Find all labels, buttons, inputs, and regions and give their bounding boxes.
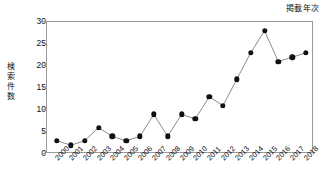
y-axis-title-char: 件 [5,82,17,92]
chart-figure: 掲載年次 検索件数 051015202530 20002001200220032… [0,0,329,188]
plot-inner [47,22,312,152]
y-tick-mark [43,153,46,154]
y-axis-title-char: 検 [5,62,17,72]
series-polyline [57,31,306,145]
x-axis-ticks: 2000200120022003200420052006200720082009… [46,156,313,188]
y-axis-title-char: 数 [5,92,17,102]
plot-area [46,21,313,153]
chart-corner-label: 掲載年次 [286,2,319,13]
series-line [47,22,314,154]
y-axis-title: 検索件数 [5,62,17,102]
y-axis-title-char: 索 [5,72,17,82]
y-axis-ticks: 051015202530 [22,21,46,153]
